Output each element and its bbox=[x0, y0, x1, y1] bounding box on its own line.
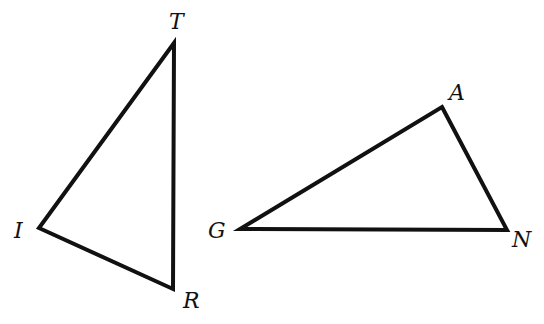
vertex-label-a: A bbox=[447, 80, 465, 105]
triangle-tri bbox=[39, 43, 174, 289]
diagram-canvas: T R I A N G bbox=[0, 0, 544, 324]
vertex-label-t: T bbox=[169, 9, 186, 34]
vertex-label-i: I bbox=[13, 218, 24, 243]
vertex-label-r: R bbox=[182, 288, 200, 313]
triangle-gan bbox=[240, 107, 507, 230]
vertex-label-g: G bbox=[208, 218, 226, 243]
vertex-label-n: N bbox=[511, 227, 532, 252]
